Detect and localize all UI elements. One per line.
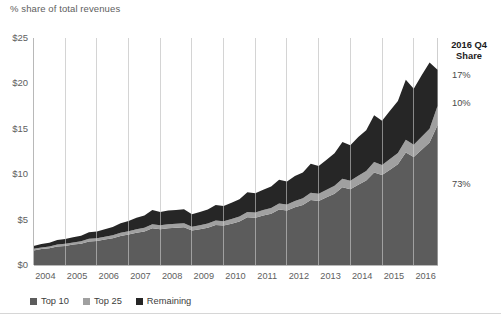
y-axis-tick: $5 <box>0 214 28 225</box>
legend-item[interactable]: Remaining <box>136 296 191 306</box>
x-axis-tick: 2005 <box>60 271 94 281</box>
x-axis-tick: 2012 <box>282 271 316 281</box>
bottom-divider <box>0 313 501 314</box>
annotation-subtitle: Share <box>442 51 496 62</box>
y-axis-tick: $10 <box>0 168 28 179</box>
legend-swatch-icon <box>83 298 90 305</box>
x-axis-tick: 2009 <box>187 271 221 281</box>
x-axis-tick: 2011 <box>250 271 284 281</box>
legend-label: Remaining <box>147 296 191 306</box>
legend-swatch-icon <box>30 298 37 305</box>
legend-item[interactable]: Top 10 <box>30 296 69 306</box>
annotation-title: 2016 Q4 <box>442 40 496 51</box>
legend-item[interactable]: Top 25 <box>83 296 122 306</box>
y-axis-tick: $20 <box>0 77 28 88</box>
x-axis-tick: 2013 <box>314 271 348 281</box>
annotation-remaining-pct: 17% <box>452 70 471 80</box>
legend-label: Top 10 <box>41 296 69 306</box>
x-axis-tick: 2007 <box>123 271 157 281</box>
x-axis-tick: 2014 <box>345 271 379 281</box>
legend-swatch-icon <box>136 298 143 305</box>
x-axis-tick: 2015 <box>377 271 411 281</box>
annotation-top10-pct: 73% <box>452 179 471 189</box>
chart-legend: Top 10Top 25Remaining <box>30 296 205 306</box>
y-axis-tick: $15 <box>0 123 28 134</box>
chart-root: % share of total revenues Top 10Top 25Re… <box>0 0 501 327</box>
x-axis-tick: 2010 <box>219 271 253 281</box>
x-axis-tick: 2006 <box>92 271 126 281</box>
x-axis-tick: 2008 <box>155 271 189 281</box>
y-axis-tick: $0 <box>0 259 28 270</box>
legend-label: Top 25 <box>94 296 122 306</box>
x-axis-tick: 2004 <box>28 271 62 281</box>
x-axis-tick: 2016 <box>409 271 443 281</box>
y-axis-tick: $25 <box>0 32 28 43</box>
annotation-top25-pct: 10% <box>452 98 471 108</box>
